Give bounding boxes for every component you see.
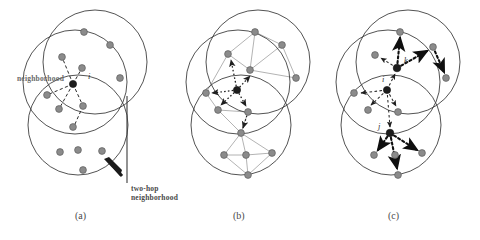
panel-b-group — [186, 10, 310, 178]
graph-edge — [246, 153, 272, 155]
network-node — [56, 106, 63, 113]
network-node — [117, 75, 124, 82]
graph-edge — [224, 133, 241, 155]
graph-edge — [228, 54, 250, 70]
network-node — [79, 65, 86, 72]
graph-edge — [250, 32, 255, 70]
panel-a-dashed-links — [47, 57, 83, 124]
network-node — [392, 152, 399, 159]
network-node — [238, 130, 245, 137]
network-node — [365, 107, 372, 114]
network-node — [81, 29, 88, 36]
network-node — [279, 42, 286, 49]
node-i — [383, 86, 390, 93]
network-node — [243, 152, 250, 159]
panel-c-label-j: j — [378, 121, 380, 131]
diagram-svg — [0, 0, 480, 240]
network-node — [443, 75, 450, 82]
panel-a-group — [20, 10, 147, 183]
network-node — [70, 124, 77, 131]
network-node — [57, 149, 64, 156]
graph-edge — [255, 32, 282, 45]
graph-edge — [250, 45, 282, 70]
coverage-circle — [28, 75, 128, 175]
network-node — [430, 44, 437, 51]
coverage-circle — [43, 10, 147, 114]
panel-a-nodes — [44, 29, 124, 174]
caption-a: (a) — [75, 210, 86, 221]
network-node — [44, 92, 51, 99]
node-j — [386, 129, 394, 137]
panel-c-dashed-arrows — [361, 58, 397, 127]
two-hop-pointer — [104, 96, 127, 183]
network-node — [221, 152, 228, 159]
center-node — [69, 80, 76, 87]
network-node — [75, 147, 82, 154]
network-node — [247, 67, 254, 74]
panel-a-center-label: i — [88, 71, 90, 81]
thick-dotted-arrow — [390, 133, 397, 168]
network-node — [107, 42, 114, 49]
network-node — [245, 172, 252, 179]
network-node — [80, 167, 87, 174]
node-k — [393, 64, 401, 72]
graph-edge — [228, 32, 255, 54]
network-node — [395, 109, 402, 116]
network-node — [252, 29, 259, 36]
network-node — [203, 90, 210, 97]
panel-c-label-i: i — [382, 74, 384, 84]
network-node — [80, 103, 87, 110]
network-node — [293, 75, 300, 82]
network-node — [225, 51, 232, 58]
caption-b: (b) — [233, 210, 245, 221]
thick-dotted-arrow — [397, 38, 400, 68]
graph-edge — [241, 133, 272, 153]
graph-edge — [206, 54, 228, 93]
network-node — [395, 172, 402, 179]
network-node — [419, 150, 426, 157]
neighborhood-label: neighborhood — [17, 74, 64, 83]
thick-dotted-arrow — [397, 51, 427, 68]
two-hop-label-line2: neighborhood — [131, 193, 178, 203]
panel-b-dotted-arrows — [212, 60, 250, 128]
figure-canvas: neighborhood i two-hop neighborhood k i … — [0, 0, 480, 240]
caption-c: (c) — [388, 210, 399, 221]
network-node — [269, 150, 276, 157]
network-node — [99, 148, 106, 155]
coverage-circle — [206, 10, 310, 114]
network-node — [397, 29, 404, 36]
panel-c-group — [336, 10, 460, 178]
network-node — [215, 107, 222, 114]
network-node — [372, 52, 379, 59]
coverage-circle — [336, 30, 440, 134]
thick-dotted-arrow — [390, 133, 417, 150]
network-node — [59, 54, 66, 61]
network-node — [371, 152, 378, 159]
panel-c-label-k: k — [404, 55, 408, 65]
network-node — [245, 109, 252, 116]
network-node — [351, 90, 358, 97]
center-node — [233, 86, 240, 93]
graph-edge — [218, 110, 241, 133]
